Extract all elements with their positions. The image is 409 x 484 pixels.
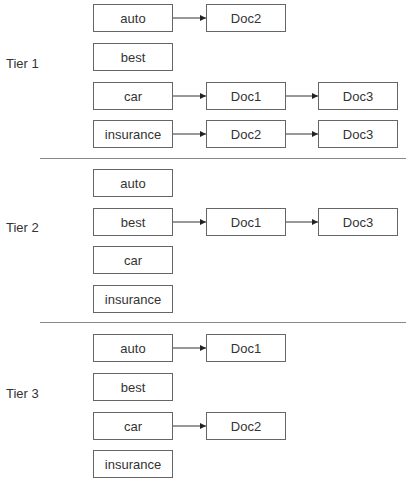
tier-3-label: Tier 3 [6,386,39,401]
term-auto-tier1: auto [93,4,173,32]
term-insurance-tier1: insurance [93,120,173,148]
arrows-layer [0,0,409,484]
term-car-tier2: car [93,246,173,274]
term-best-tier3: best [93,373,173,401]
posting-box: Doc3 [318,208,398,236]
term-insurance-tier3: insurance [93,450,173,478]
tier-separator [40,158,406,159]
tier-2-label: Tier 2 [6,220,39,235]
posting-box: Doc1 [206,208,286,236]
posting-box: Doc3 [318,82,398,110]
tier-1-label: Tier 1 [6,56,39,71]
posting-box: Doc2 [206,412,286,440]
posting-box: Doc3 [318,120,398,148]
term-insurance-tier2: insurance [93,285,173,313]
term-car-tier3: car [93,412,173,440]
term-best-tier1: best [93,43,173,71]
posting-box: Doc1 [206,82,286,110]
posting-box: Doc1 [206,334,286,362]
tier-separator [40,322,406,323]
term-auto-tier2: auto [93,169,173,197]
term-best-tier2: best [93,208,173,236]
term-car-tier1: car [93,82,173,110]
posting-box: Doc2 [206,4,286,32]
posting-box: Doc2 [206,120,286,148]
term-auto-tier3: auto [93,334,173,362]
